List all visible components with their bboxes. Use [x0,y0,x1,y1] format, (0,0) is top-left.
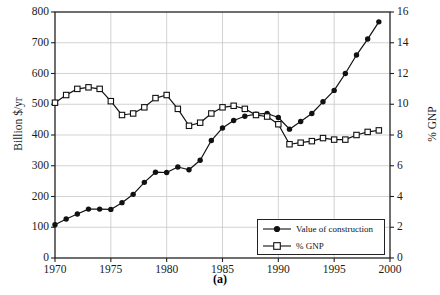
y-right-tick-16: 16 [397,5,431,17]
y-right-tick-8: 8 [397,128,431,140]
legend: Value of construction % GNP [257,219,385,255]
y-axis-left-label: Billion $/yr [12,84,24,164]
y-left-tick-600: 600 [15,67,49,79]
y-right-tick-10: 10 [397,97,431,109]
y-left-tick-300: 300 [15,159,49,171]
y-left-tick-400: 400 [15,128,49,140]
y-right-tick-0: 0 [397,251,431,263]
filled-circle-icon [262,223,292,235]
chart-figure: Billion $/yr % GNP 010020030040050060070… [0,0,440,295]
y-left-tick-200: 200 [15,190,49,202]
y-right-tick-14: 14 [397,36,431,48]
y-left-tick-500: 500 [15,97,49,109]
legend-label-0: Value of construction [296,224,373,234]
y-right-tick-6: 6 [397,159,431,171]
y-left-tick-100: 100 [15,220,49,232]
legend-item-value-of-construction: Value of construction [262,221,373,237]
y-axis-right-label: % GNP [426,84,438,164]
y-left-tick-0: 0 [15,251,49,263]
legend-label-1: % GNP [296,241,324,251]
y-left-tick-800: 800 [15,5,49,17]
figure-caption: (a) [0,272,440,287]
legend-item-percent-gnp: % GNP [262,238,324,254]
y-left-tick-700: 700 [15,36,49,48]
open-square-icon [262,240,292,252]
y-right-tick-2: 2 [397,220,431,232]
y-right-tick-12: 12 [397,67,431,79]
y-right-tick-4: 4 [397,190,431,202]
